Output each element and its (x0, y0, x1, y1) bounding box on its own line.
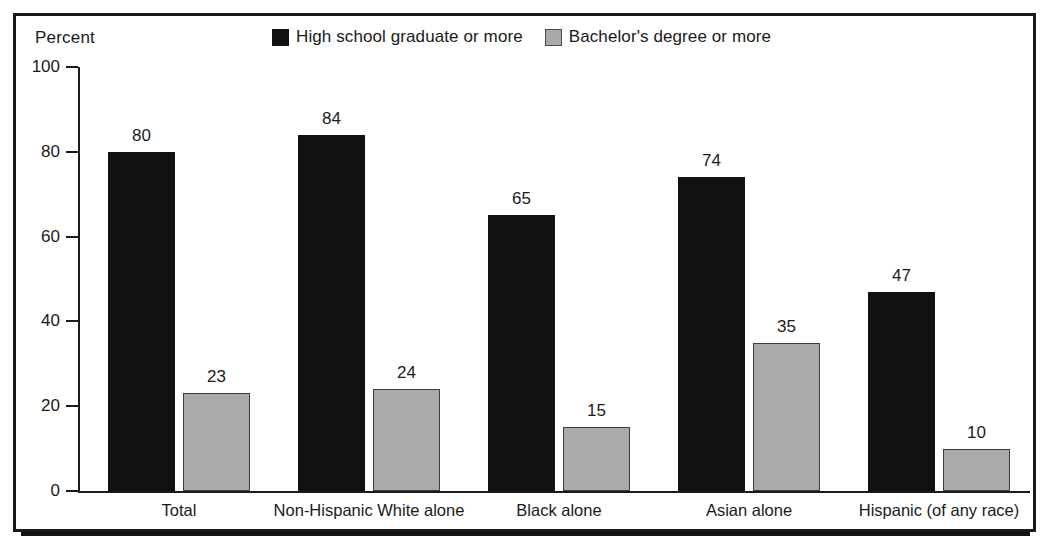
bar-value-label: 15 (543, 401, 650, 421)
bar (753, 343, 820, 491)
bar-value-label: 23 (163, 367, 270, 387)
bar (298, 135, 365, 491)
bar-value-label: 24 (353, 363, 460, 383)
bar-value-label: 80 (88, 126, 195, 146)
bars-layer: 80238424651574354710 (0, 0, 1051, 548)
bar-value-label: 35 (733, 317, 840, 337)
bar (373, 389, 440, 491)
bar (183, 393, 250, 491)
bottom-rule-divider (21, 532, 1030, 536)
bar (943, 449, 1010, 491)
bar-value-label: 47 (848, 266, 955, 286)
bar (108, 152, 175, 491)
bar (488, 215, 555, 491)
bar (563, 427, 630, 491)
bar-value-label: 74 (658, 151, 765, 171)
chart-figure: Percent High school graduate or more Bac… (0, 0, 1051, 548)
bar-value-label: 10 (923, 423, 1030, 443)
bar-value-label: 65 (468, 189, 575, 209)
bar (868, 292, 935, 491)
bar-value-label: 84 (278, 109, 385, 129)
x-axis-category-label: Hispanic (of any race) (789, 501, 1051, 520)
